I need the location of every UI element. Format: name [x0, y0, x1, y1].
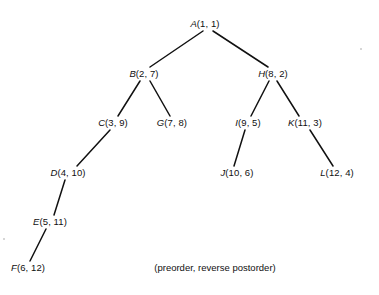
tree-node-g-label: G	[157, 117, 165, 128]
tree-node-i: I(9, 5)	[235, 118, 261, 128]
tree-node-b: B(2, 7)	[129, 69, 158, 79]
tree-edges-layer	[0, 0, 379, 295]
tree-node-j-order-pair: (10, 6)	[225, 167, 253, 178]
tree-edge-h-k	[277, 81, 299, 116]
tree-node-d-order-pair: (4, 10)	[57, 167, 85, 178]
tree-node-a: A(1, 1)	[190, 19, 219, 29]
tree-node-l-order-pair: (12, 4)	[326, 167, 354, 178]
tree-edge-b-g	[150, 81, 170, 116]
tree-edge-b-c	[118, 81, 140, 116]
scan-speck-1	[360, 48, 362, 50]
tree-edge-e-f	[30, 229, 46, 261]
tree-node-c: C(3, 9)	[98, 118, 128, 128]
tree-diagram-figure: A(1, 1)B(2, 7)H(8, 2)C(3, 9)G(7, 8)I(9, …	[0, 0, 379, 295]
tree-node-g-order-pair: (7, 8)	[164, 117, 187, 128]
tree-node-j: J(10, 6)	[220, 168, 253, 178]
tree-node-l: L(12, 4)	[320, 168, 354, 178]
tree-node-k-order-pair: (11, 3)	[294, 117, 321, 128]
tree-node-d: D(4, 10)	[50, 168, 85, 178]
scan-speck-0	[3, 238, 5, 240]
figure-caption: (preorder, reverse postorder)	[154, 263, 275, 273]
tree-edge-d-e	[54, 180, 65, 215]
tree-edge-a-b	[150, 31, 203, 67]
tree-edge-c-d	[77, 130, 110, 166]
tree-edge-a-h	[213, 31, 268, 67]
tree-node-h: H(8, 2)	[258, 69, 288, 79]
tree-node-f-order-pair: (6, 12)	[17, 262, 45, 273]
tree-node-d-label: D	[50, 167, 57, 178]
tree-node-g: G(7, 8)	[157, 118, 187, 128]
tree-edge-i-j	[234, 130, 245, 166]
tree-node-h-label: H	[258, 68, 265, 79]
tree-node-k: K(11, 3)	[288, 118, 322, 128]
tree-edge-h-i	[251, 81, 269, 116]
tree-node-b-order-pair: (2, 7)	[136, 68, 159, 79]
tree-node-h-order-pair: (8, 2)	[265, 68, 288, 79]
tree-node-e-order-pair: (5, 11)	[39, 216, 66, 227]
tree-node-c-order-pair: (3, 9)	[105, 117, 128, 128]
tree-node-a-order-pair: (1, 1)	[197, 18, 220, 29]
tree-node-f: F(6, 12)	[11, 263, 45, 273]
tree-node-e: E(5, 11)	[33, 217, 67, 227]
tree-node-c-label: C	[98, 117, 105, 128]
tree-node-i-order-pair: (9, 5)	[238, 117, 261, 128]
tree-edge-k-l	[310, 130, 333, 166]
